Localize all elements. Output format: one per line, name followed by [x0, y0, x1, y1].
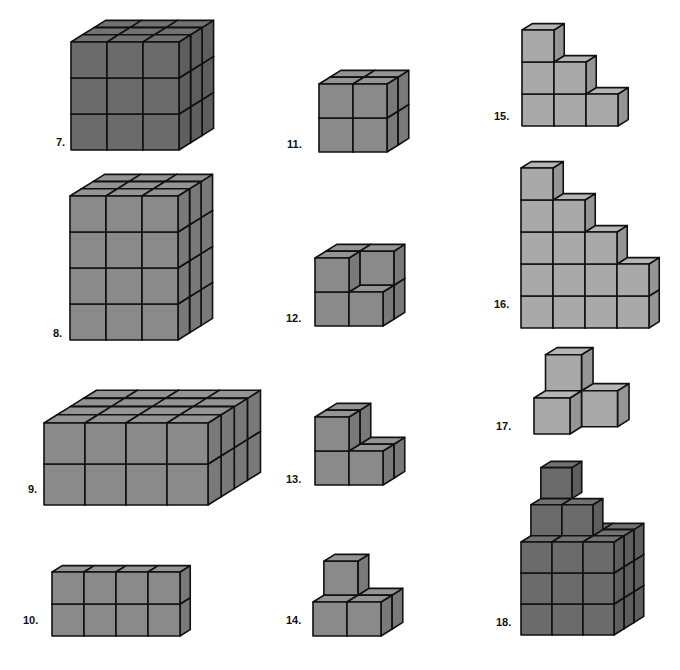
label-11: 11.: [287, 138, 302, 150]
label-7: 7.: [56, 136, 65, 148]
label-15: 15.: [494, 110, 509, 122]
label-14: 14.: [286, 614, 301, 626]
label-18: 18.: [496, 616, 511, 628]
label-16: 16.: [494, 298, 509, 310]
cube-figures-canvas: [0, 0, 680, 670]
label-13: 13.: [286, 473, 301, 485]
label-12: 12.: [286, 312, 301, 324]
label-17: 17.: [496, 420, 511, 432]
label-8: 8.: [53, 327, 62, 339]
label-9: 9.: [28, 483, 37, 495]
label-10: 10.: [23, 614, 38, 626]
